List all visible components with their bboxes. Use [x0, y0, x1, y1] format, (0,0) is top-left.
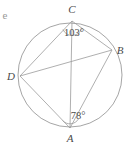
- vertex-label-c: C: [68, 3, 76, 15]
- vertex-label-b: B: [117, 44, 124, 56]
- vertex-label-d: D: [6, 70, 15, 82]
- angle-label-a: 78°: [71, 110, 86, 121]
- circle-geometry-diagram: 103° 78° A B C D e: [0, 0, 130, 145]
- angle-label-c: 103°: [64, 27, 84, 38]
- stray-text-fragment: e: [3, 9, 8, 21]
- geometry-figure: 103° 78° A B C D e: [0, 0, 130, 145]
- vertex-label-a: A: [66, 132, 74, 144]
- diagonal-b-d: [20, 50, 112, 76]
